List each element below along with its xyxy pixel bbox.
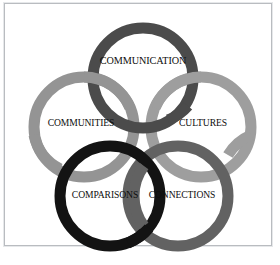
ring-label-comparisons: COMPARISONS — [72, 189, 138, 200]
figure-root: COMMUNICATION COMMUNITIES CULTURES COMPA… — [0, 0, 280, 265]
ring-label-cultures: CULTURES — [179, 117, 227, 128]
weave-communities-over-connections — [34, 135, 60, 169]
ring-label-communities: COMMUNITIES — [48, 117, 115, 128]
rings-diagram: COMMUNICATION COMMUNITIES CULTURES COMPA… — [0, 0, 280, 265]
ring-label-communication: COMMUNICATION — [100, 55, 187, 66]
ring-label-connections: CONNECTIONS — [149, 189, 216, 200]
caption-strip — [0, 252, 280, 265]
